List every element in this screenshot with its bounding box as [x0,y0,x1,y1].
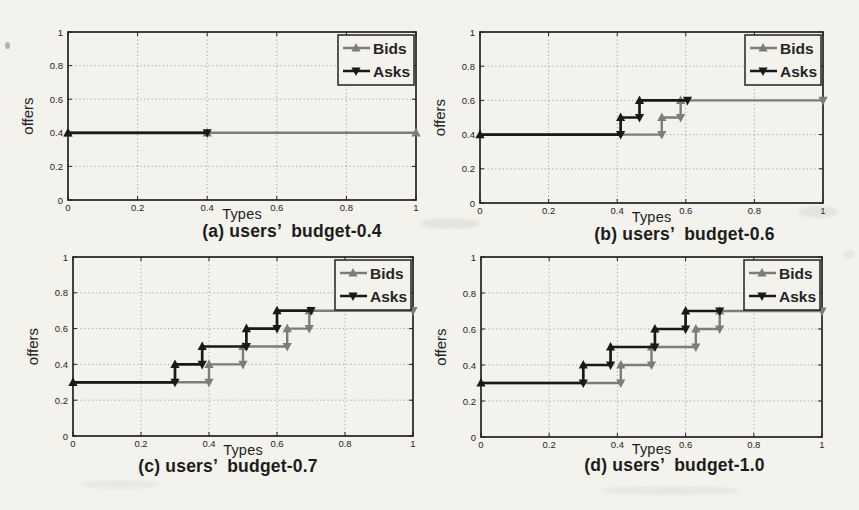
subplot-b-caption: (b) users’ budget-0.6 [513,224,856,245]
legend-label-asks: Asks [370,288,407,305]
scan-artifact [600,486,740,495]
y-tick-label: 0.8 [463,288,476,299]
subplot-a-caption: (a) users’ budget-0.4 [118,221,466,242]
scan-artifact [420,218,480,229]
scanned-figure-page: 00.20.40.60.8100.20.40.60.81offersBidsAs… [0,0,859,510]
y-tick-label: 0.6 [50,94,63,105]
y-tick-label: 1 [471,252,476,263]
scan-artifact [798,206,838,218]
y-tick-label: 0.2 [50,161,63,172]
legend-label-bids: Bids [780,40,814,57]
y-tick-label: 0.4 [462,129,475,140]
y-axis-label: offers [432,328,449,365]
legend-label-asks: Asks [373,63,410,80]
y-axis-label: offers [431,99,448,136]
y-axis-label: offers [24,328,41,365]
subplot-c-caption: (c) users’ budget-0.7 [58,456,398,477]
y-tick-label: 0.6 [462,95,475,106]
legend-label-asks: Asks [779,288,816,305]
subplot-a-chart: 00.20.40.60.8100.20.40.60.81offersBidsAs… [22,24,426,214]
y-tick-label: 0 [470,198,475,209]
y-tick-label: 0.2 [462,163,475,174]
legend-label-bids: Bids [779,265,813,282]
y-tick-label: 0.8 [50,60,63,71]
y-tick-label: 0.4 [463,360,476,371]
scan-artifact [5,42,10,49]
subplot-a-xaxis-label: Types [68,206,416,222]
scan-artifact [843,250,855,258]
y-tick-label: 0.4 [55,359,68,370]
y-tick-label: 1 [58,27,63,38]
y-tick-label: 0.2 [463,396,476,407]
y-tick-label: 1 [470,27,475,38]
y-tick-label: 0 [63,431,68,442]
legend-label-asks: Asks [780,63,817,80]
subplot-d-caption: (d) users’ budget-1.0 [504,455,845,476]
y-tick-label: 0 [471,432,476,443]
y-tick-label: 0.4 [50,127,63,138]
y-tick-label: 1 [63,252,68,263]
legend-label-bids: Bids [370,265,404,282]
y-tick-label: 0 [58,195,63,206]
scan-artifact [80,480,160,489]
series-bids-line [480,100,823,134]
subplot-d-chart: 00.20.40.60.8100.20.40.60.81offersBidsAs… [435,249,832,451]
subplot-b-xaxis-label: Types [480,209,823,225]
y-tick-label: 0.2 [55,395,68,406]
y-tick-label: 0.8 [55,287,68,298]
y-tick-label: 0.8 [462,61,475,72]
y-axis-label: offers [19,97,36,134]
subplot-c-chart: 00.20.40.60.8100.20.40.60.81offersBidsAs… [27,249,423,450]
subplot-b-chart: 00.20.40.60.8100.20.40.60.81offersBidsAs… [434,24,833,217]
y-tick-label: 0.6 [463,324,476,335]
legend-label-bids: Bids [373,40,407,57]
y-tick-label: 0.6 [55,323,68,334]
series-asks-line [480,100,688,134]
